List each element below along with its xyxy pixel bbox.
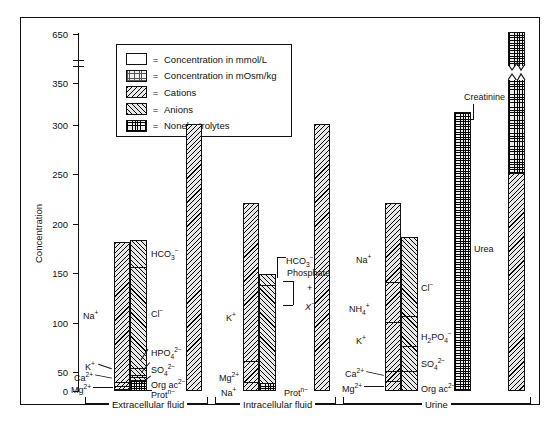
legend-equals: = [147,87,164,98]
segment-prot [260,384,275,391]
segment-k [244,204,258,362]
legend-item-mosm: = Concentration in mOsm/kg [126,68,291,85]
y-ticklabel-150: 150 [34,269,68,278]
segment-mg [244,362,258,383]
y-ticklabel-50: 50 [34,368,68,377]
leader-urine-mg [364,386,384,387]
legend-label-anions: Anions [164,104,193,115]
segment-mg [115,390,129,391]
legend-swatch-empty [126,53,147,65]
bar-urine-osmolality-top [508,32,525,66]
label-urine-mg: Mg2+ [342,381,362,394]
segment-osmolality-electrolyte [509,174,524,391]
segment-so4 [402,347,417,372]
bar-urine-anions [401,237,418,391]
label-ecf-hco3: HCO3− [151,246,179,259]
segment-mg [386,382,400,391]
segment-hco3 [260,275,275,286]
legend-label-mmol: Concentration in mmol/L [164,54,267,65]
label-icf-hco3: HCO3− [286,253,314,266]
label-ecf-hpo4: HPO42− [151,345,182,358]
legend-item-cations: = Cations [126,84,291,101]
label-icf-k: K+ [226,310,236,323]
label-ecf-mg: Mg2+ [71,382,91,395]
y-tick-100 [73,323,79,324]
label-icf-mg: Mg2+ [219,370,239,383]
bar-icf-anions [259,274,276,391]
legend-swatch-nonelectrolytes [126,120,147,132]
y-ticklabel-650: 650 [34,30,68,39]
y-tick-650 [73,34,79,35]
leader-ecf-ca [95,374,112,378]
segment-na [386,204,400,283]
label-urine-ca: Ca2+ [345,366,364,379]
label-urine-cl: Cl− [421,280,433,293]
y-tick-350 [73,83,79,84]
legend-item-nonelectrolytes: = Nonelectrolytes [126,117,291,134]
label-icf-phosphate: Phosphate [287,269,330,278]
label-ecf-na: Na+ [83,308,98,321]
label-urine-na: Na+ [356,252,371,265]
label-urine-h2po4: H2PO4− [421,329,452,342]
axis-break-lower [73,66,84,67]
group-label-urine: Urine [422,399,451,410]
bar-urine-nonelectrolytes [454,112,471,391]
bar-urine-cations [385,203,401,391]
label-urine-urea: Urea [474,245,494,254]
label-urine-k: K+ [356,333,366,346]
leader-icf-phosphate-top [283,281,293,282]
legend-equals: = [147,54,164,65]
leader-icf-hco3-vert [277,257,278,278]
label-urine-creatinine: Creatinine [464,93,505,102]
legend-item-anions: = Anions [126,101,291,118]
legend: = Concentration in mmol/L = Concentratio… [116,44,292,137]
segment-hco3 [131,241,146,268]
bar-urine-osmolality-main [508,80,525,391]
legend-label-cations: Cations [164,87,196,98]
y-tick-300 [73,125,79,126]
leader-ecf-prot [141,390,152,391]
segment-h2po4 [402,317,417,347]
legend-label-mosm: Concentration in mOsm/kg [164,70,276,81]
leader-urine-creatinine-horiz [469,119,474,120]
bar-icf-cations [243,203,259,391]
chart-figure: 650 350 300 250 200 150 100 50 0 Concent… [0,0,560,431]
segment-creatinine [455,113,470,127]
leader-icf-hco3-horiz [277,257,286,258]
segment-urea [455,127,470,391]
segment-cl [402,238,417,317]
legend-equals: = [147,104,164,115]
chart-frame: 650 350 300 250 200 150 100 50 0 Concent… [20,17,540,405]
label-urine-nh4: NH4+ [349,301,370,314]
segment-osmolality-nonelectrolyte [509,80,524,174]
segment-ca [386,372,400,382]
y-ticklabel-300: 300 [34,121,68,130]
y-ticklabel-0: 0 [34,387,68,396]
segment-na [115,243,129,383]
segment-nh4 [386,283,400,323]
legend-swatch-osmolality [126,70,147,82]
legend-equals: = [147,120,164,131]
segment-orgac [402,372,417,391]
bar-icf-osmolality [314,124,330,391]
leader-icf-phosphate-bot [283,305,293,306]
y-ticklabel-250: 250 [34,170,68,179]
axis-break-zigzag-upper [508,62,526,72]
y-tick-200 [73,224,79,225]
segment-osmolality [315,125,329,391]
leader-ecf-mg [93,387,113,388]
leader-icf-phosphate-vert [293,281,294,305]
group-label-icf: Intracellular fluid [240,399,315,410]
leader-urine-ca [366,371,384,376]
segment-osmolality [187,125,201,391]
bar-ecf-osmolality [186,124,202,391]
y-tick-150 [73,273,79,274]
label-urine-orgac: Org ac2− [421,381,456,394]
leader-urine-creatinine-vert [473,104,474,119]
segment-k [386,323,400,372]
label-ecf-cl: Cl− [151,306,163,319]
legend-swatch-cations [126,86,147,98]
y-ticklabel-100: 100 [34,319,68,328]
y-tick-250 [73,174,79,175]
label-ecf-so4: SO42− [151,362,175,375]
